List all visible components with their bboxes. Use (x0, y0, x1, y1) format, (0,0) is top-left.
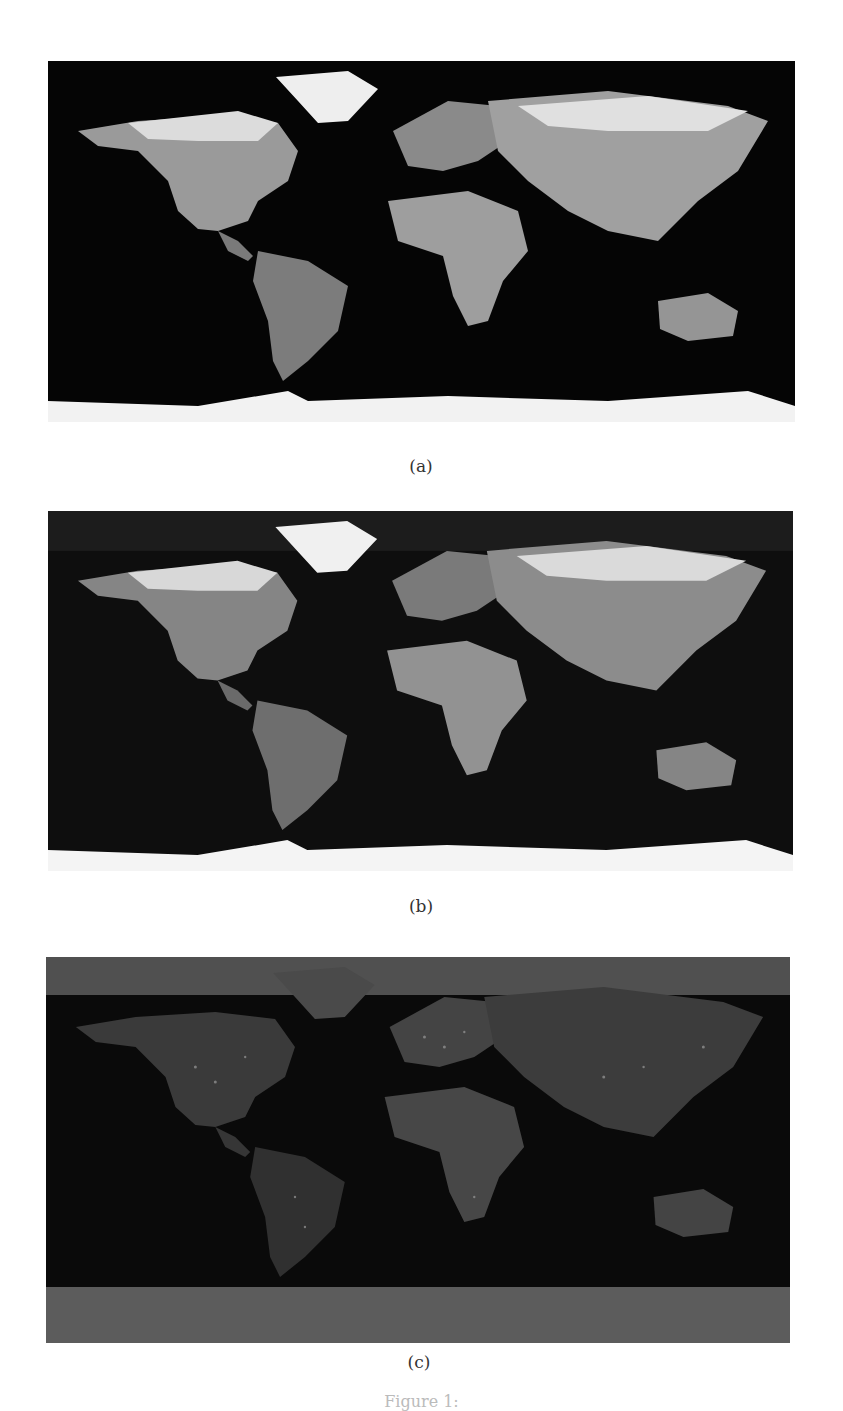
subfigure-a: (a) (0, 0, 843, 490)
subcaption-a: (a) (361, 456, 481, 476)
subfigure-c: (c) (0, 940, 843, 1380)
map-a-graphic (48, 61, 795, 422)
map-b-graphic (48, 511, 793, 871)
world-map-b (48, 511, 793, 871)
subcaption-c: (c) (359, 1352, 479, 1372)
world-map-a (48, 61, 795, 422)
subfigure-b: (b) (0, 490, 843, 940)
world-map-c (46, 957, 790, 1343)
map-c-graphic (46, 957, 790, 1343)
figure-caption: Figure 1: (0, 1392, 843, 1411)
subcaption-b: (b) (361, 896, 481, 916)
